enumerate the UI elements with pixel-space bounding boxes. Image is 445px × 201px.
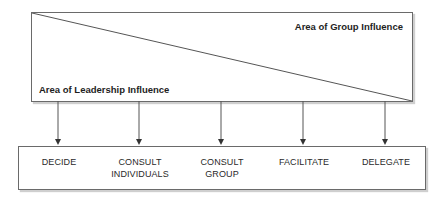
decision-continuum-diagram: Area of Group Influence Area of Leadersh… [0, 0, 445, 201]
arrow-down-icon [55, 101, 61, 145]
style-facilitate: FACILITATE [264, 156, 344, 168]
arrow-down-icon [300, 101, 306, 145]
style-delegate: DELEGATE [346, 156, 426, 168]
arrow-down-icon [136, 101, 142, 145]
style-label-line1: CONSULT [100, 156, 180, 168]
style-consult-group: CONSULT GROUP [182, 156, 262, 180]
arrow-down-icon [218, 101, 224, 145]
style-label-line1: DELEGATE [346, 156, 426, 168]
arrow-down-icon [382, 101, 388, 145]
style-label-line1: CONSULT [182, 156, 262, 168]
style-label-line2: GROUP [182, 168, 262, 180]
style-consult-individuals: CONSULT INDIVIDUALS [100, 156, 180, 180]
style-label-line1: DECIDE [19, 156, 99, 168]
style-label-line2: INDIVIDUALS [100, 168, 180, 180]
style-decide: DECIDE [19, 156, 99, 168]
style-label-line1: FACILITATE [264, 156, 344, 168]
decision-styles-box: DECIDE CONSULT INDIVIDUALS CONSULT GROUP… [18, 146, 426, 190]
